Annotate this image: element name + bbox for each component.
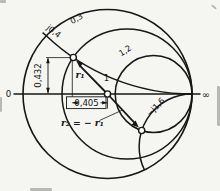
vector-r1-label: r₁: [76, 69, 85, 80]
point-r1: [70, 54, 76, 60]
dim-arrow-up-icon: [46, 58, 50, 64]
dim-arrow-down-icon: [46, 88, 50, 94]
scan-artifact: [217, 86, 220, 126]
point-r2: [139, 127, 145, 133]
point-center: [104, 91, 110, 97]
dim-0-432-label: 0,432: [33, 63, 43, 88]
reactance-arc-j0-4: [43, 33, 192, 94]
scan-artifact: [0, 97, 2, 112]
relation-r2-equals-minus-r1-label: r₂ = − r₁: [61, 117, 104, 128]
center-point-label: 1: [104, 73, 109, 83]
axis-zero-label: 0: [6, 89, 11, 99]
smith-chart-canvas: 0 ∞ j0,4 0,3 1,2 −j1,6 0,432 0,405 1 r₁ …: [0, 0, 220, 191]
vector-r2-line: [108, 94, 135, 123]
dim-0-405-label: 0,405: [74, 98, 99, 108]
scan-artifact: [30, 188, 52, 191]
resistance-1-2-label: 1,2: [117, 43, 133, 58]
smith-chart-figure: 0 ∞ j0,4 0,3 1,2 −j1,6 0,432 0,405 1 r₁ …: [0, 0, 220, 191]
scan-artifact: [0, 0, 6, 3]
reactance-minus-j1-6-label: −j1,6: [144, 95, 167, 118]
axis-infinity-label: ∞: [202, 89, 210, 100]
